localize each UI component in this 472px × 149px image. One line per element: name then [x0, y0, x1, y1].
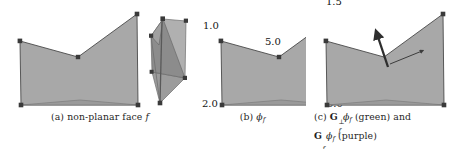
face-vertex — [442, 103, 447, 108]
panel-b-phi-f: 1.0 5.0 1.5 2.0 0.0 (b) ϕf — [194, 0, 306, 149]
face-vertex — [325, 103, 330, 108]
inset-vertex — [183, 76, 187, 80]
face-vertex — [220, 103, 225, 108]
value-label-notch: 5.0 — [265, 36, 281, 47]
inset-3d-view — [149, 16, 188, 105]
value-label-bottom-left: 2.0 — [202, 98, 218, 109]
caption-c-and: and — [393, 111, 411, 122]
inset-vertex — [160, 16, 165, 21]
face-vertex — [18, 39, 23, 44]
face-polygon — [20, 14, 138, 105]
panel-c-graphic — [300, 0, 472, 110]
inset-vertex — [150, 70, 154, 74]
caption-c-operator: G — [314, 130, 322, 141]
caption-c-legend-purple: (purple) — [338, 130, 377, 141]
caption-c-operator-perp: G — [330, 111, 338, 122]
caption-a-prefix: (a) — [51, 111, 64, 122]
inset-vertex — [158, 101, 163, 106]
value-label-top-left: 1.0 — [203, 20, 219, 31]
face-vertex — [277, 55, 281, 59]
face-polygon — [221, 14, 306, 105]
caption-a-text: non-planar face — [67, 111, 142, 122]
panel-b-graphic — [194, 0, 306, 110]
caption-c-prefix: (c) — [314, 111, 327, 122]
face-vertex — [441, 12, 446, 17]
face-vertex — [136, 103, 141, 108]
caption-a-symbol: f — [146, 111, 150, 122]
face-vertex — [219, 39, 224, 44]
inset-vertex — [184, 19, 188, 23]
face-vertex — [324, 39, 329, 44]
panel-a-graphic — [0, 0, 200, 110]
panel-a-non-planar-face: (a) non-planar face f — [0, 0, 200, 149]
caption-b-phi-symbol: ϕf — [256, 111, 265, 122]
panel-c-gradients: (c) G⊥fϕf (green) and Gfϕf (purple) — [300, 0, 472, 149]
caption-b-prefix: (b) — [240, 111, 254, 122]
caption-panel-a: (a) non-planar face f — [25, 110, 175, 123]
caption-panel-c: (c) G⊥fϕf (green) and Gfϕf (purple) — [314, 110, 472, 146]
figure-root: (a) non-planar face f 1.0 5.0 1.5 2.0 0.… — [0, 0, 472, 149]
face-vertex — [135, 12, 140, 17]
face-vertex — [19, 103, 24, 108]
caption-c-phi-2: ϕf — [326, 130, 335, 141]
caption-panel-b: (b) ϕf — [200, 110, 305, 127]
caption-c-legend-green: (green) — [355, 111, 390, 122]
face-vertex — [76, 55, 80, 59]
inset-vertex — [149, 34, 153, 38]
